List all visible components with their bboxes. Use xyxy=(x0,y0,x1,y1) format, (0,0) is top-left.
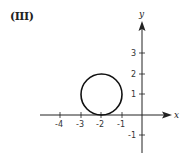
x-tick-label: -2 xyxy=(96,120,104,129)
x-tick-label: -4 xyxy=(55,120,63,129)
y-tick-label: 2 xyxy=(131,70,136,79)
y-tick-label: 1 xyxy=(131,90,136,99)
y-tick-label: -1 xyxy=(128,131,136,140)
circle-curve xyxy=(81,74,122,115)
y-tick-label: 3 xyxy=(131,49,136,58)
x-tick-label: -3 xyxy=(76,120,84,129)
x-axis-name: x xyxy=(174,110,179,120)
coordinate-plot: x y -4 -3 -2 -1 3 2 1 -1 xyxy=(0,0,187,153)
x-tick-label: -1 xyxy=(117,120,125,129)
y-axis-name: y xyxy=(138,9,145,19)
